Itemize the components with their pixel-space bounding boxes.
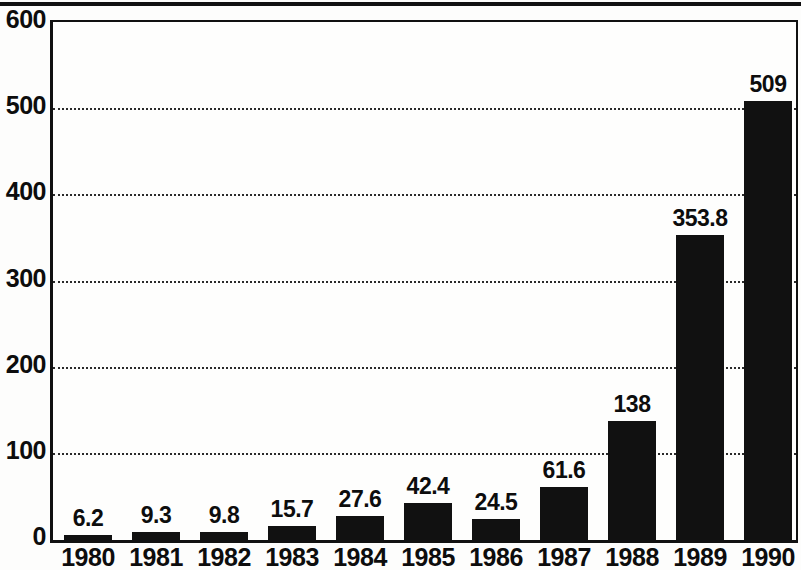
x-tick-label-1989: 1989 (666, 545, 734, 570)
gridline-100 (53, 453, 796, 455)
x-tick-label-1980: 1980 (54, 545, 122, 570)
x-tick-label-1986: 1986 (462, 545, 530, 570)
x-tick-label-1984: 1984 (326, 545, 394, 570)
gridline-200 (53, 367, 796, 369)
gridline-400 (53, 194, 796, 196)
gridline-500 (53, 108, 796, 110)
y-tick-label-300: 300 (0, 266, 46, 291)
x-tick-label-1982: 1982 (190, 545, 258, 570)
x-tick-label-1983: 1983 (258, 545, 326, 570)
y-tick-label-0: 0 (0, 524, 46, 549)
y-tick-label-500: 500 (0, 93, 46, 118)
y-tick-label-400: 400 (0, 179, 46, 204)
x-axis-tick-labels: 1980198119821983198419851986198719881989… (50, 545, 798, 570)
gridline-300 (53, 281, 796, 283)
plot-area (50, 20, 798, 543)
x-tick-label-1981: 1981 (122, 545, 190, 570)
y-tick-label-100: 100 (0, 438, 46, 463)
x-tick-label-1985: 1985 (394, 545, 462, 570)
y-tick-label-200: 200 (0, 352, 46, 377)
y-tick-label-600: 600 (0, 7, 46, 32)
x-tick-label-1988: 1988 (598, 545, 666, 570)
top-rule-divider (0, 2, 801, 6)
bar-chart: 0100200300400500600 6.29.39.815.727.642.… (0, 0, 801, 570)
x-tick-label-1987: 1987 (530, 545, 598, 570)
y-axis-tick-labels: 0100200300400500600 (0, 20, 46, 543)
x-tick-label-1990: 1990 (734, 545, 801, 570)
